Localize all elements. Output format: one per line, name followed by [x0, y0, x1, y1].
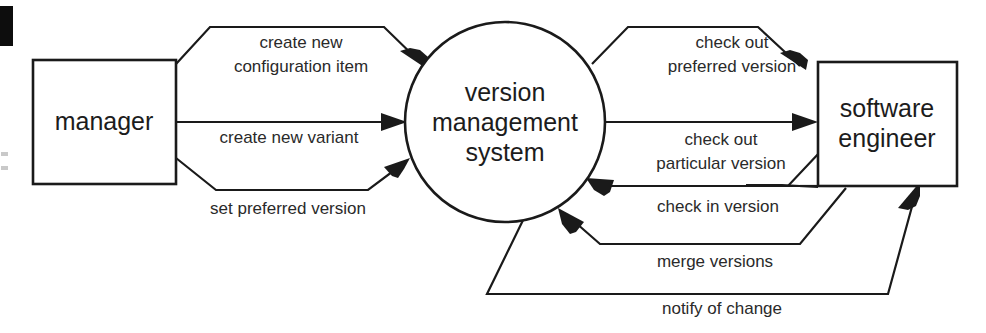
flow-label-check-out-particular-version-line2: particular version — [656, 154, 785, 173]
node-software-engineer[interactable]: software engineer — [818, 62, 957, 186]
flow-label-notify-of-change: notify of change — [662, 299, 782, 318]
node-manager-label: manager — [55, 107, 154, 135]
scan-speck-upper — [1, 152, 8, 156]
node-version-management-system[interactable]: version management system — [405, 22, 605, 222]
flow-check-out-preferred-version: check out preferred version — [592, 27, 808, 76]
flow-label-check-in-version: check in version — [657, 197, 779, 216]
flow-create-new-variant: create new variant — [176, 113, 407, 147]
flow-label-set-preferred-version: set preferred version — [210, 199, 366, 218]
arrowhead-check-in-version — [586, 178, 614, 196]
node-version-management-system-label-line1: version — [465, 78, 546, 106]
node-version-management-system-label-line3: system — [465, 138, 544, 166]
scan-speck-lower — [1, 166, 8, 170]
flow-label-create-new-configuration-item-line1: create new — [259, 33, 343, 52]
flow-label-create-new-variant: create new variant — [220, 128, 359, 147]
node-version-management-system-label-line2: management — [432, 108, 578, 136]
flow-check-out-particular-version: check out particular version — [606, 113, 818, 173]
node-software-engineer-label-line2: engineer — [838, 124, 935, 152]
arrowhead-check-out-particular-version — [792, 113, 818, 131]
flow-label-check-out-preferred-version-line1: check out — [696, 33, 769, 52]
node-software-engineer-label-line1: software — [840, 94, 934, 122]
arrowhead-merge-versions — [558, 208, 584, 234]
flow-label-create-new-configuration-item-line2: configuration item — [234, 57, 368, 76]
flow-create-new-configuration-item: create new configuration item — [176, 27, 428, 76]
data-flow-diagram: create new configuration item create new… — [0, 0, 986, 333]
flow-set-preferred-version: set preferred version — [176, 158, 410, 218]
page-edge-mark — [0, 6, 13, 46]
flow-line-set-preferred-version — [176, 158, 404, 190]
flow-label-merge-versions: merge versions — [657, 252, 773, 271]
flow-label-check-out-preferred-version-line2: preferred version — [668, 57, 797, 76]
arrowhead-create-new-variant — [381, 113, 407, 131]
node-manager[interactable]: manager — [33, 60, 176, 184]
diagram-canvas: create new configuration item create new… — [0, 0, 986, 333]
flow-label-check-out-particular-version-line1: check out — [685, 130, 758, 149]
